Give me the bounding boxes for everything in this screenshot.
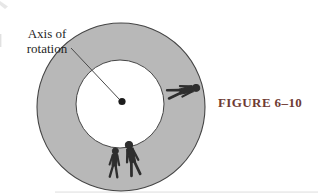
scan-smudge-topleft bbox=[0, 1, 8, 9]
axis-center-dot bbox=[118, 98, 125, 105]
axis-of-rotation-label: Axis of rotation bbox=[20, 26, 74, 56]
figure-6-10: Axis of rotation FIGURE 6–10 bbox=[0, 0, 318, 194]
axis-label-line1: Axis of bbox=[20, 26, 74, 41]
axis-label-line2: rotation bbox=[20, 41, 74, 56]
scan-mark-left-edge bbox=[0, 34, 1, 47]
figure-caption: FIGURE 6–10 bbox=[218, 95, 302, 111]
scan-streak-bottom bbox=[55, 191, 318, 193]
